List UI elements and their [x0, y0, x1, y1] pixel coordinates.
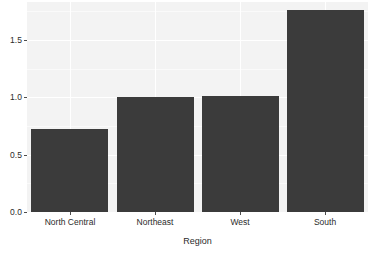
y-tick-mark [24, 97, 27, 98]
y-tick: 0.5 [10, 150, 27, 160]
x-tick-mark [70, 212, 71, 215]
y-tick-label: 1.0 [10, 92, 22, 102]
x-tick-label: South [314, 217, 336, 228]
x-tick-label: West [230, 217, 249, 228]
bar-chart: 0.00.51.01.5 North CentralNortheastWestS… [0, 0, 368, 254]
bar [31, 129, 108, 212]
x-axis: North CentralNortheastWestSouth [27, 212, 368, 232]
x-tick-mark [155, 212, 156, 215]
plot-panel [27, 2, 368, 212]
y-tick-mark [24, 40, 27, 41]
y-tick: 1.0 [10, 92, 27, 102]
y-tick: 1.5 [10, 35, 27, 45]
x-tick-mark [325, 212, 326, 215]
y-tick-label: 0.5 [10, 150, 22, 160]
x-axis-title: Region [27, 236, 368, 247]
x-tick-label: North Central [45, 217, 96, 228]
x-tick-mark [240, 212, 241, 215]
bar [202, 96, 279, 212]
y-axis: 0.00.51.01.5 [0, 2, 27, 212]
y-tick-label: 0.0 [10, 207, 22, 217]
y-tick-label: 1.5 [10, 35, 22, 45]
bar [117, 97, 194, 212]
y-tick-mark [24, 155, 27, 156]
bar [287, 10, 364, 212]
x-tick-label: Northeast [137, 217, 174, 228]
y-tick: 0.0 [10, 207, 27, 217]
